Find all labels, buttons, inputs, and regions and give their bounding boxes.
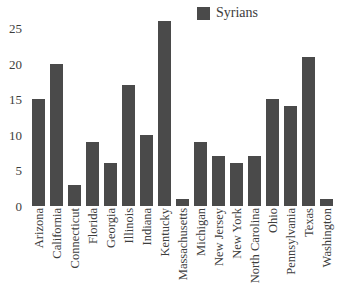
bar[interactable]: [50, 64, 63, 206]
bar[interactable]: [104, 163, 117, 206]
x-axis-label-slot: Ohio: [264, 208, 282, 303]
bar[interactable]: [68, 185, 81, 206]
y-axis-tick: 10: [9, 128, 22, 141]
bar[interactable]: [320, 199, 333, 206]
x-axis-label-slot: Washington: [318, 208, 336, 303]
bar[interactable]: [194, 142, 207, 206]
clipped-title-remnant: [0, 0, 353, 3]
x-axis-label: Indiana: [141, 208, 154, 245]
bar[interactable]: [122, 85, 135, 206]
x-axis-label: New York: [231, 208, 244, 259]
bar[interactable]: [158, 21, 171, 206]
x-axis-label-slot: Illinois: [120, 208, 138, 303]
bar[interactable]: [230, 163, 243, 206]
x-axis-label-slot: New York: [228, 208, 246, 303]
x-axis-label-slot: California: [48, 208, 66, 303]
x-axis-label: Arizona: [33, 208, 46, 248]
x-axis-label: Florida: [87, 208, 100, 244]
x-axis-label-slot: Texas: [300, 208, 318, 303]
x-axis-label: Ohio: [267, 208, 280, 233]
bar[interactable]: [176, 199, 189, 206]
x-axis-label: Connecticut: [69, 208, 82, 268]
bar[interactable]: [248, 156, 261, 206]
bar[interactable]: [140, 135, 153, 206]
x-axis-label: North Carolina: [249, 208, 262, 283]
y-axis-tick: 20: [9, 57, 22, 70]
x-axis-label: Kentucky: [159, 208, 172, 257]
bar[interactable]: [86, 142, 99, 206]
bar-chart: Syrians 0510152025 ArizonaCaliforniaConn…: [0, 0, 353, 303]
bar[interactable]: [32, 99, 45, 206]
x-axis-label-slot: Connecticut: [66, 208, 84, 303]
x-axis-label-slot: Massachusetts: [174, 208, 192, 303]
x-axis-label-slot: North Carolina: [246, 208, 264, 303]
x-axis-label: California: [51, 208, 64, 259]
bar[interactable]: [266, 99, 279, 206]
bar[interactable]: [212, 156, 225, 206]
x-axis-label: Illinois: [123, 208, 136, 243]
x-axis-label: Michigan: [195, 208, 208, 256]
x-axis-label-slot: Florida: [84, 208, 102, 303]
bars-group: [28, 14, 350, 206]
x-axis-label-slot: Georgia: [102, 208, 120, 303]
x-axis-label: Massachusetts: [177, 208, 190, 280]
bar[interactable]: [302, 57, 315, 206]
x-axis-label-slot: New Jersey: [210, 208, 228, 303]
y-axis-tick: 0: [16, 200, 23, 213]
y-axis-tick: 5: [16, 164, 23, 177]
x-axis-label: Pennsylvania: [285, 208, 298, 275]
bar[interactable]: [284, 106, 297, 206]
y-axis: 0510152025: [0, 14, 26, 206]
x-axis-label-slot: Michigan: [192, 208, 210, 303]
x-axis-label-slot: Kentucky: [156, 208, 174, 303]
y-axis-tick: 15: [9, 93, 22, 106]
x-axis-labels: ArizonaCaliforniaConnecticutFloridaGeorg…: [28, 208, 350, 303]
x-axis-label: Texas: [303, 208, 316, 237]
x-axis-label-slot: Pennsylvania: [282, 208, 300, 303]
x-axis-label: Georgia: [105, 208, 118, 248]
x-axis-label: Washington: [321, 208, 334, 267]
x-axis-label-slot: Arizona: [30, 208, 48, 303]
x-axis-label: New Jersey: [213, 208, 226, 266]
y-axis-tick: 25: [9, 22, 22, 35]
plot-area: [28, 14, 350, 206]
x-axis-label-slot: Indiana: [138, 208, 156, 303]
